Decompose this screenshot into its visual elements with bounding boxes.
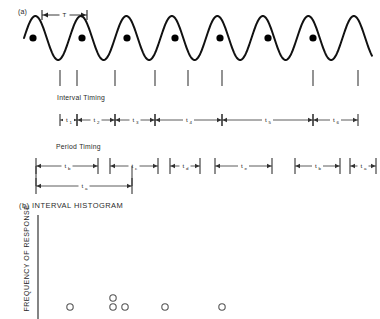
event-tick-group [60,70,358,86]
response-dot-2 [78,34,85,41]
histogram-point-2 [110,295,116,301]
period-span-label-3: t [183,162,185,169]
response-dot-3 [123,34,130,41]
histogram-data-points [67,295,225,310]
period-marker-label: T [63,11,67,18]
period-lower-span-label-1: t [82,182,84,189]
histogram-point-1 [67,304,73,310]
period-span-label-6: t [361,162,363,169]
response-dot-6 [264,34,271,41]
histogram-point-4 [122,304,128,310]
response-dot-7 [309,34,316,41]
interval-span-label-3: t [133,116,135,123]
response-dot-4 [171,34,178,41]
interval-span-label-6: t [333,116,335,123]
interval-span-label-4: t [186,116,188,123]
histogram-point-3 [110,304,116,310]
period-span-label-4: t [241,162,243,169]
interval-span-label-1: t [66,116,68,123]
histogram-point-6 [219,304,225,310]
sine-wave-path [24,16,372,60]
period-timing-spans: tbtctdtetbtata [36,158,376,194]
response-dot-5 [216,34,223,41]
period-span-label-5: t [315,162,317,169]
figure-container: (a) Interval Timing Period Timing (b) IN… [0,0,380,319]
figure-vector-layer: T t1t2t3t4t5t6 tbtctdtetbtata [0,0,380,319]
response-dot-1 [29,34,36,41]
interval-span-label-5: t [265,116,267,123]
histogram-point-5 [162,304,168,310]
interval-timing-spans: t1t2t3t4t5t6 [60,114,358,126]
period-span-label-1: t [65,162,67,169]
period-marker-T: T [42,10,87,20]
interval-span-label-2: t [94,116,96,123]
